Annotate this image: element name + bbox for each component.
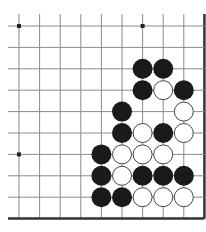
white-stone [133,124,152,143]
black-stone [91,187,111,207]
star-point-icon [141,24,145,28]
star-point-icon [17,152,21,156]
go-board [0,0,206,232]
black-stone [112,187,132,207]
white-stone [113,145,132,164]
white-stone [154,81,173,100]
star-point-icon [17,24,21,28]
black-stone [133,59,153,79]
white-stone [133,188,152,207]
white-stone [174,102,193,121]
white-stone [154,145,173,164]
black-stone [174,80,194,100]
black-stone [133,80,153,100]
black-stone [174,166,194,186]
black-stone [91,166,111,186]
black-stone [133,166,153,186]
black-stone [91,144,111,164]
black-stone [112,102,132,122]
black-stone [112,123,132,143]
white-stone [113,166,132,185]
white-stone [154,188,173,207]
white-stone [133,145,152,164]
white-stone [174,124,193,143]
board-grid [8,14,204,219]
black-stone [153,123,173,143]
black-stone [153,166,173,186]
black-stone [153,59,173,79]
white-stone [174,188,193,207]
